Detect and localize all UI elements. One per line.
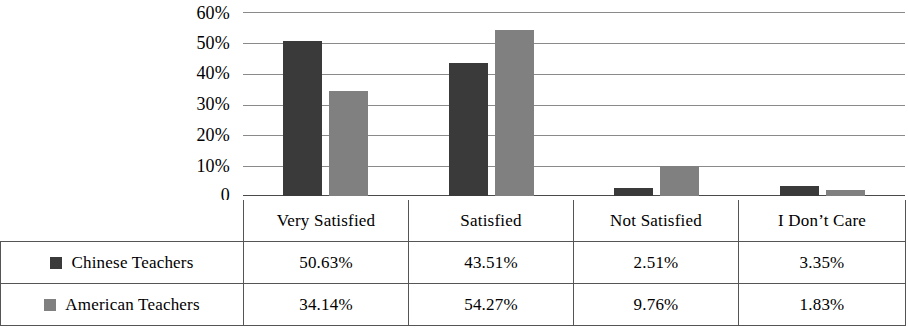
bar-chart: 60% 50% 40% 30% 20% 10% 0 xyxy=(0,0,908,200)
bar-chinese-teachers-not-satisfied xyxy=(614,188,653,196)
value-cell: 50.63% xyxy=(244,242,409,284)
gridline-60 xyxy=(243,12,905,13)
value-cell: 3.35% xyxy=(739,242,906,284)
bar-chinese-teachers-very-satisfied xyxy=(283,41,322,196)
value-cell: 2.51% xyxy=(574,242,739,284)
y-axis-tick: 20% xyxy=(196,126,230,144)
legend-swatch-icon xyxy=(50,257,62,269)
y-axis-tick: 30% xyxy=(196,95,230,113)
column-header-very-satisfied: Very Satisfied xyxy=(244,200,409,242)
value-table: Very Satisfied Satisfied Not Satisfied I… xyxy=(0,200,906,326)
bar-american-teachers-very-satisfied xyxy=(329,91,368,196)
legend-swatch-icon xyxy=(44,299,56,311)
bar-chinese-teachers-satisfied xyxy=(449,63,488,196)
gridline-40 xyxy=(243,74,905,75)
gridline-50 xyxy=(243,43,905,44)
y-axis-tick: 10% xyxy=(196,157,230,175)
blank-corner-cell xyxy=(1,200,244,242)
bar-american-teachers-not-satisfied xyxy=(660,166,699,196)
table-row: Chinese Teachers 50.63% 43.51% 2.51% 3.3… xyxy=(1,242,906,284)
data-table-legend: Very Satisfied Satisfied Not Satisfied I… xyxy=(0,200,908,330)
table-row: American Teachers 34.14% 54.27% 9.76% 1.… xyxy=(1,284,906,326)
bar-chinese-teachers-i-don-t-care xyxy=(780,186,819,196)
value-cell: 9.76% xyxy=(574,284,739,326)
bar-american-teachers-i-don-t-care xyxy=(826,190,865,196)
legend-label: American Teachers xyxy=(65,295,200,315)
y-axis-labels: 60% 50% 40% 30% 20% 10% 0 xyxy=(0,0,238,200)
value-cell: 43.51% xyxy=(409,242,574,284)
column-header-satisfied: Satisfied xyxy=(409,200,574,242)
plot-area xyxy=(243,0,905,200)
legend-item-chinese-teachers: Chinese Teachers xyxy=(1,242,244,284)
y-axis-tick: 50% xyxy=(196,34,230,52)
value-cell: 1.83% xyxy=(739,284,906,326)
bar-american-teachers-satisfied xyxy=(495,30,534,196)
y-axis-tick: 60% xyxy=(196,4,230,22)
value-cell: 34.14% xyxy=(244,284,409,326)
table-header-row: Very Satisfied Satisfied Not Satisfied I… xyxy=(1,200,906,242)
y-axis-tick: 40% xyxy=(196,64,230,82)
legend-item-american-teachers: American Teachers xyxy=(1,284,244,326)
column-header-i-dont-care: I Don’t Care xyxy=(739,200,906,242)
legend-label: Chinese Teachers xyxy=(71,253,193,273)
value-cell: 54.27% xyxy=(409,284,574,326)
column-header-not-satisfied: Not Satisfied xyxy=(574,200,739,242)
